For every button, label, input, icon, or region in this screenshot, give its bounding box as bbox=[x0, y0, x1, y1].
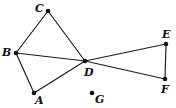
segment-cd bbox=[48, 11, 85, 61]
point-layer bbox=[14, 9, 169, 96]
point-label-b: B bbox=[2, 47, 11, 58]
point-label-e: E bbox=[162, 29, 170, 40]
segment-ad bbox=[34, 61, 85, 93]
segment-layer bbox=[16, 11, 166, 93]
point-e[interactable] bbox=[164, 42, 169, 47]
segment-ba bbox=[16, 53, 34, 93]
point-label-g: G bbox=[95, 94, 104, 105]
point-d[interactable] bbox=[83, 59, 88, 64]
point-label-c: C bbox=[35, 3, 44, 14]
geometry-canvas bbox=[0, 0, 176, 108]
point-label-d: D bbox=[84, 67, 94, 78]
point-c[interactable] bbox=[46, 9, 51, 14]
point-label-f: F bbox=[161, 84, 169, 95]
segment-bc bbox=[16, 11, 48, 53]
segment-ef bbox=[165, 44, 166, 79]
point-b[interactable] bbox=[14, 51, 19, 56]
point-f[interactable] bbox=[163, 77, 168, 82]
segment-de bbox=[85, 44, 166, 61]
segment-df bbox=[85, 61, 165, 79]
geometry-diagram: ABCDEFG bbox=[0, 0, 176, 108]
point-g[interactable] bbox=[90, 91, 95, 96]
point-label-a: A bbox=[35, 95, 44, 106]
segment-bd bbox=[16, 53, 85, 61]
